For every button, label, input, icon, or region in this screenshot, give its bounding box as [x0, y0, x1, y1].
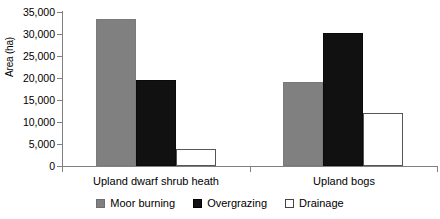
legend-label: Overgrazing: [207, 197, 267, 209]
category-label: Upland bogs: [250, 174, 438, 188]
bar-0-group-1: [283, 82, 323, 166]
x-axis-tick: [62, 166, 63, 172]
y-axis-tick: [57, 144, 62, 145]
y-axis-tick: [57, 34, 62, 35]
y-axis-tick: [57, 56, 62, 57]
legend-swatch-icon: [193, 199, 202, 208]
bar-1-group-1: [323, 33, 363, 166]
legend-entry-1[interactable]: Overgrazing: [193, 197, 267, 209]
y-axis-tick: [57, 78, 62, 79]
y-axis-tick: [57, 100, 62, 101]
chart-legend: Moor burningOvergrazingDrainage: [0, 197, 440, 209]
legend-swatch-icon: [96, 199, 105, 208]
legend-entry-2[interactable]: Drainage: [285, 197, 344, 209]
y-axis-tick: [57, 122, 62, 123]
y-axis-tick-label: 20,000: [3, 73, 55, 83]
y-axis-tick-label: 25,000: [3, 51, 55, 61]
bar-1-group-0: [136, 80, 176, 166]
y-axis-tick-label: 15,000: [3, 95, 55, 105]
bar-0-group-0: [96, 19, 136, 166]
y-axis-tick-label: 5,000: [3, 139, 55, 149]
y-axis-tick-label: 10,000: [3, 117, 55, 127]
legend-label: Drainage: [299, 197, 344, 209]
bar-2-group-1: [363, 113, 403, 166]
x-axis-tick: [437, 166, 438, 172]
y-axis-tick-label: 0: [3, 161, 55, 171]
x-axis-tick: [250, 166, 251, 172]
bar-2-group-0: [176, 149, 216, 166]
y-axis-tick: [57, 12, 62, 13]
y-axis-line: [62, 11, 63, 167]
y-axis-tick-label: 30,000: [3, 29, 55, 39]
legend-label: Moor burning: [110, 197, 175, 209]
legend-entry-0[interactable]: Moor burning: [96, 197, 175, 209]
y-axis-tick-label: 35,000: [3, 7, 55, 17]
category-label: Upland dwarf shrub heath: [62, 174, 250, 188]
legend-swatch-icon: [285, 199, 294, 208]
bar-chart-figure: Area (ha) 05,00010,00015,00020,00025,000…: [0, 0, 440, 219]
